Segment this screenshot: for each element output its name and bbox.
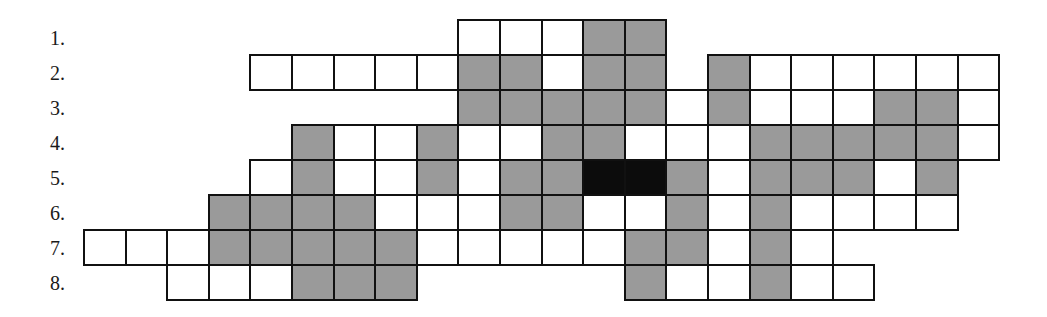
grid-cell-shaded — [208, 194, 252, 231]
grid-cell-shaded — [416, 124, 460, 161]
grid-cell-blank[interactable] — [457, 159, 501, 196]
grid-cell-blank[interactable] — [208, 264, 252, 301]
grid-cell-shaded — [499, 194, 543, 231]
grid-cell-shaded — [624, 264, 668, 301]
grid-cell-black — [582, 159, 626, 196]
row-label: 8. — [50, 273, 90, 293]
grid-cell-blank[interactable] — [790, 264, 834, 301]
crossword-grid: 1.2.3.4.5.6.7.8. — [0, 0, 1047, 317]
grid-cell-blank[interactable] — [873, 54, 917, 91]
grid-cell-blank[interactable] — [457, 19, 501, 56]
grid-cell-blank[interactable] — [707, 194, 751, 231]
grid-cell-shaded — [749, 229, 793, 266]
grid-cell-shaded — [707, 89, 751, 126]
grid-cell-shaded — [499, 54, 543, 91]
grid-cell-blank[interactable] — [541, 54, 585, 91]
grid-cell-shaded — [749, 264, 793, 301]
grid-cell-blank[interactable] — [957, 124, 1001, 161]
grid-cell-blank[interactable] — [665, 264, 709, 301]
grid-cell-blank[interactable] — [166, 264, 210, 301]
grid-cell-blank[interactable] — [915, 194, 959, 231]
grid-cell-blank[interactable] — [873, 194, 917, 231]
grid-cell-blank[interactable] — [832, 89, 876, 126]
grid-cell-blank[interactable] — [83, 229, 127, 266]
grid-cell-shaded — [541, 124, 585, 161]
grid-cell-shaded — [291, 229, 335, 266]
grid-cell-blank[interactable] — [499, 19, 543, 56]
grid-cell-blank[interactable] — [416, 54, 460, 91]
grid-cell-blank[interactable] — [374, 194, 418, 231]
grid-cell-blank[interactable] — [957, 89, 1001, 126]
grid-cell-blank[interactable] — [249, 159, 293, 196]
grid-cell-blank[interactable] — [832, 264, 876, 301]
grid-cell-blank[interactable] — [457, 194, 501, 231]
grid-cell-shaded — [374, 264, 418, 301]
grid-cell-blank[interactable] — [499, 124, 543, 161]
grid-cell-shaded — [291, 124, 335, 161]
grid-cell-blank[interactable] — [915, 54, 959, 91]
grid-cell-blank[interactable] — [582, 194, 626, 231]
grid-cell-blank[interactable] — [333, 54, 377, 91]
grid-cell-shaded — [749, 194, 793, 231]
grid-cell-shaded — [624, 54, 668, 91]
grid-cell-blank[interactable] — [832, 194, 876, 231]
grid-cell-shaded — [582, 19, 626, 56]
grid-cell-blank[interactable] — [707, 264, 751, 301]
grid-cell-blank[interactable] — [665, 89, 709, 126]
grid-cell-blank[interactable] — [416, 229, 460, 266]
grid-cell-black — [624, 159, 668, 196]
grid-cell-shaded — [707, 54, 751, 91]
grid-cell-shaded — [541, 89, 585, 126]
grid-cell-shaded — [915, 89, 959, 126]
grid-cell-blank[interactable] — [582, 229, 626, 266]
grid-cell-shaded — [582, 54, 626, 91]
grid-cell-shaded — [333, 229, 377, 266]
grid-cell-blank[interactable] — [707, 159, 751, 196]
grid-cell-shaded — [915, 124, 959, 161]
grid-cell-shaded — [291, 159, 335, 196]
row-label: 6. — [50, 203, 90, 223]
grid-cell-blank[interactable] — [541, 229, 585, 266]
grid-cell-blank[interactable] — [125, 229, 169, 266]
grid-cell-blank[interactable] — [499, 229, 543, 266]
grid-cell-blank[interactable] — [790, 89, 834, 126]
grid-cell-shaded — [582, 124, 626, 161]
row-label: 5. — [50, 168, 90, 188]
grid-cell-blank[interactable] — [957, 54, 1001, 91]
grid-cell-shaded — [749, 159, 793, 196]
grid-cell-shaded — [249, 229, 293, 266]
grid-cell-blank[interactable] — [790, 54, 834, 91]
grid-cell-shaded — [499, 159, 543, 196]
grid-cell-blank[interactable] — [416, 194, 460, 231]
grid-cell-blank[interactable] — [624, 194, 668, 231]
grid-cell-blank[interactable] — [374, 54, 418, 91]
grid-cell-blank[interactable] — [873, 159, 917, 196]
grid-cell-blank[interactable] — [457, 124, 501, 161]
grid-cell-blank[interactable] — [665, 124, 709, 161]
grid-cell-blank[interactable] — [333, 124, 377, 161]
grid-cell-blank[interactable] — [749, 54, 793, 91]
grid-cell-shaded — [873, 89, 917, 126]
grid-cell-shaded — [832, 159, 876, 196]
grid-cell-blank[interactable] — [374, 124, 418, 161]
grid-cell-blank[interactable] — [333, 159, 377, 196]
grid-cell-shaded — [582, 89, 626, 126]
grid-cell-blank[interactable] — [707, 229, 751, 266]
grid-cell-blank[interactable] — [249, 54, 293, 91]
grid-cell-blank[interactable] — [749, 89, 793, 126]
grid-cell-shaded — [624, 89, 668, 126]
grid-cell-blank[interactable] — [832, 54, 876, 91]
grid-cell-blank[interactable] — [249, 264, 293, 301]
grid-cell-blank[interactable] — [166, 229, 210, 266]
grid-cell-blank[interactable] — [291, 54, 335, 91]
grid-cell-blank[interactable] — [790, 194, 834, 231]
grid-cell-blank[interactable] — [457, 229, 501, 266]
grid-cell-blank[interactable] — [624, 124, 668, 161]
grid-cell-blank[interactable] — [541, 19, 585, 56]
grid-cell-blank[interactable] — [374, 159, 418, 196]
grid-cell-shaded — [790, 159, 834, 196]
grid-cell-blank[interactable] — [707, 124, 751, 161]
grid-cell-shaded — [208, 229, 252, 266]
grid-cell-blank[interactable] — [790, 229, 834, 266]
grid-cell-shaded — [249, 194, 293, 231]
